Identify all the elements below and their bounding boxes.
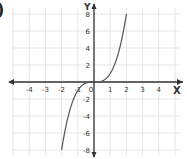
y-axis-arrow-up-icon — [92, 3, 97, 9]
y-tick-label: 6 — [86, 28, 91, 36]
x-tick-label: 2 — [124, 86, 128, 94]
x-tick-label: 0 — [89, 86, 93, 94]
y-tick-label: -2 — [83, 96, 90, 104]
x-tick-label: -2 — [58, 86, 65, 94]
y-tick-label: 2 — [86, 62, 90, 70]
y-axis-arrow-down-icon — [92, 152, 97, 158]
x-tick-label: 4 — [157, 86, 162, 94]
x-tick-label: -4 — [26, 86, 34, 94]
y-tick-label: -4 — [83, 113, 91, 121]
x-axis-arrow-left-icon — [8, 79, 14, 85]
y-tick-label: -6 — [83, 130, 91, 138]
y-tick-label: -8 — [83, 147, 90, 155]
x-tick-label: -3 — [42, 86, 49, 94]
y-tick-label: 4 — [86, 45, 91, 53]
x-tick-label: 1 — [108, 86, 112, 94]
x-axis-label: X — [173, 85, 181, 96]
y-axis-label: Y — [83, 2, 91, 12]
x-tick-label: 3 — [140, 86, 144, 94]
cubic-function-chart: -4-3-2-101234-8-6-4-22468XY — [0, 0, 187, 159]
